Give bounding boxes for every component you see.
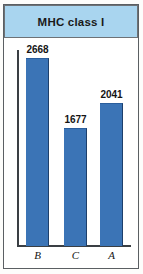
y-axis-line: [17, 50, 19, 247]
x-tick-label-b: B: [26, 249, 49, 261]
x-tick-label-a: A: [100, 249, 123, 261]
bar-value-b: 2668: [19, 44, 56, 55]
x-tick-label-c: C: [64, 249, 87, 261]
bar-value-a: 2041: [93, 89, 130, 100]
bar-c: [64, 128, 87, 246]
bar-value-c: 1677: [57, 114, 94, 125]
chart-figure: MHC class I 2668 1677 2041 B C A: [0, 0, 143, 274]
bar-a: [100, 103, 123, 246]
plot-area: 2668 1677 2041 B C A: [0, 0, 143, 274]
bar-b: [26, 58, 49, 246]
